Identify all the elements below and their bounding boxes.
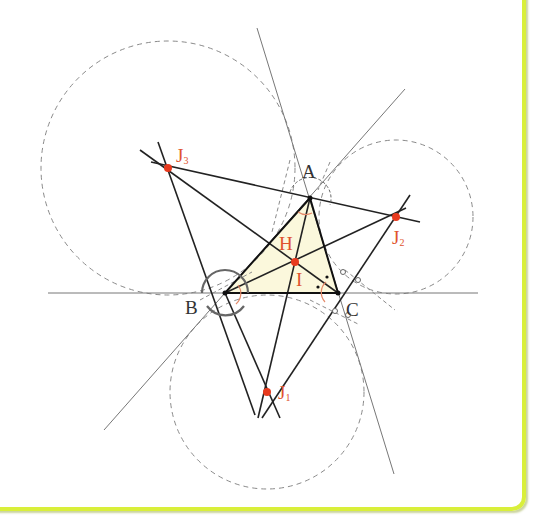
label-h: H: [279, 234, 293, 253]
label-b: B: [185, 298, 198, 317]
point-j2: [392, 213, 400, 221]
point-j3: [164, 164, 172, 172]
geometry-figure: A B C H I J3 J2 J1: [0, 0, 546, 530]
point-j1: [263, 388, 271, 396]
label-c: C: [346, 300, 359, 319]
label-i: I: [296, 270, 302, 289]
construction-svg: [0, 0, 546, 530]
label-j3: J3: [176, 146, 188, 166]
label-j1: J1: [278, 383, 290, 403]
label-j2: J2: [392, 228, 404, 248]
label-a: A: [302, 162, 316, 181]
point-i: [291, 258, 299, 266]
